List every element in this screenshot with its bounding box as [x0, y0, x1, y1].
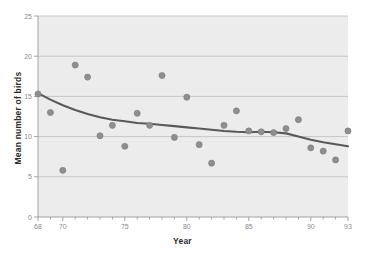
data-point	[246, 128, 252, 134]
y-tick-label-15: 15	[24, 93, 32, 100]
x-tick-label-85: 85	[245, 223, 253, 230]
x-tick-label-75: 75	[121, 223, 129, 230]
x-axis-title: Year	[0, 236, 365, 246]
plot-area-background	[38, 16, 348, 217]
data-point	[72, 62, 78, 68]
data-point	[159, 72, 165, 78]
scatter-plot-svg: 68707580859093 0510152025	[0, 0, 365, 254]
x-axis-ticks	[38, 217, 348, 221]
data-point	[35, 91, 41, 97]
x-tick-label-68: 68	[34, 223, 42, 230]
y-tick-label-5: 5	[28, 173, 32, 180]
data-point	[85, 74, 91, 80]
data-point	[60, 167, 66, 173]
data-point	[221, 122, 227, 128]
data-point	[47, 109, 53, 115]
data-point	[147, 122, 153, 128]
data-point	[233, 108, 239, 114]
data-point	[97, 133, 103, 139]
data-point	[134, 110, 140, 116]
data-point	[109, 122, 115, 128]
y-tick-label-20: 20	[24, 53, 32, 60]
data-point	[171, 134, 177, 140]
data-point	[271, 129, 277, 135]
y-axis-tick-labels: 0510152025	[24, 13, 32, 221]
x-tick-label-70: 70	[59, 223, 67, 230]
x-tick-label-93: 93	[344, 223, 352, 230]
data-point	[333, 157, 339, 163]
y-axis-ticks	[34, 16, 38, 217]
data-point	[345, 128, 351, 134]
x-tick-label-90: 90	[307, 223, 315, 230]
x-axis-tick-labels: 68707580859093	[34, 223, 352, 230]
data-point	[122, 143, 128, 149]
chart-figure: 68707580859093 0510152025 Mean number of…	[0, 0, 365, 254]
y-tick-label-0: 0	[28, 214, 32, 221]
data-point	[209, 160, 215, 166]
data-point	[320, 148, 326, 154]
y-axis-title: Mean number of birds	[13, 53, 23, 183]
y-tick-label-25: 25	[24, 13, 32, 20]
x-tick-label-80: 80	[183, 223, 191, 230]
data-point	[295, 117, 301, 123]
data-point	[184, 94, 190, 100]
y-tick-label-10: 10	[24, 133, 32, 140]
data-point	[283, 125, 289, 131]
data-point	[258, 129, 264, 135]
data-point	[308, 145, 314, 151]
data-point	[196, 142, 202, 148]
